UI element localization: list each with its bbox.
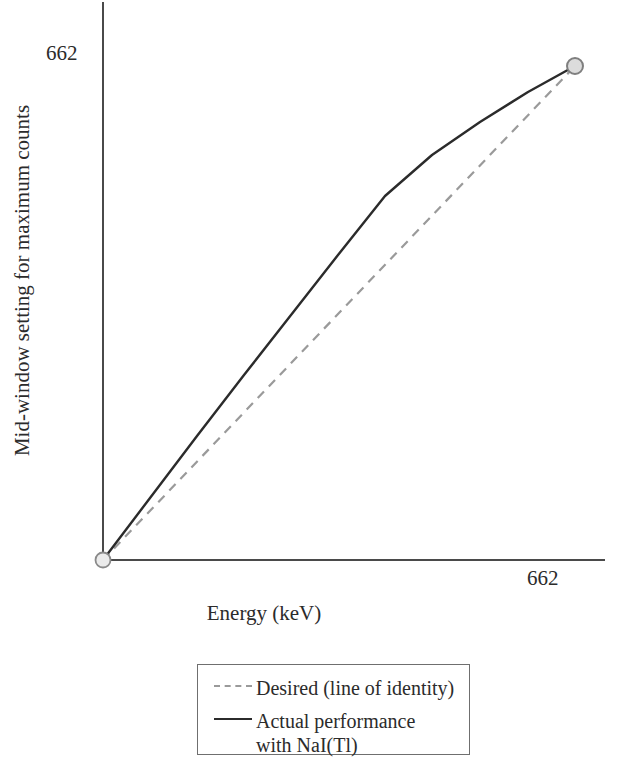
plot-canvas (0, 0, 620, 770)
chart-legend: Desired (line of identity) Actual perfor… (197, 664, 470, 755)
x-axis-title-text: Energy (keV) (207, 601, 322, 625)
data-point-max-marker (567, 58, 583, 74)
x-axis-title: Energy (keV) (0, 601, 620, 626)
series-desired-line (103, 66, 575, 560)
x-axis-tick-label: 662 (527, 568, 559, 589)
legend-item-actual: Actual performance with NaI(Tl) (212, 709, 415, 757)
legend-item-desired: Desired (line of identity) (212, 676, 454, 700)
y-axis-title: Mid-window setting for maximum counts (0, 0, 46, 560)
data-point-origin-marker (96, 553, 111, 568)
y-axis-title-text: Mid-window setting for maximum counts (11, 104, 36, 455)
legend-label-actual: Actual performance with NaI(Tl) (256, 709, 415, 757)
legend-swatch-solid-icon (212, 709, 254, 729)
y-axis-tick-label: 662 (46, 43, 78, 64)
chart-figure: 662 662 Energy (keV) Mid-window setting … (0, 0, 620, 770)
legend-swatch-dashed-icon (212, 676, 254, 696)
legend-label-desired: Desired (line of identity) (256, 676, 454, 700)
